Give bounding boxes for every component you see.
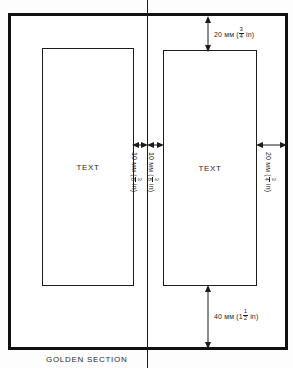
text-block-left-label: TEXT: [43, 163, 133, 172]
gutter-right-dimension-arrow: [147, 140, 164, 150]
outer-margin-dimension-label: 20 мм (34 in): [264, 152, 276, 192]
text-block-right: TEXT: [163, 50, 257, 286]
top-margin-dimension-label: 20 мм (34 in): [214, 27, 254, 39]
outer-margin-dimension-arrow: [256, 140, 287, 150]
diagram-canvas: TEXT TEXT 20 мм (34 in) 10 мм (38 in): [0, 0, 293, 368]
gutter-left-dimension-label: 10 мм (38 in): [130, 152, 142, 192]
diagram-caption: GOLDEN SECTION: [46, 355, 127, 364]
top-margin-dimension-arrow: [203, 16, 213, 52]
bottom-margin-dimension-arrow: [203, 285, 213, 349]
text-block-left: TEXT: [42, 48, 134, 286]
gutter-left-dimension-arrow: [132, 140, 148, 150]
gutter-right-dimension-label: 10 мм (38 in): [147, 152, 159, 192]
text-block-right-label: TEXT: [164, 164, 256, 173]
bottom-margin-dimension-label: 40 мм (112 in): [214, 309, 258, 321]
